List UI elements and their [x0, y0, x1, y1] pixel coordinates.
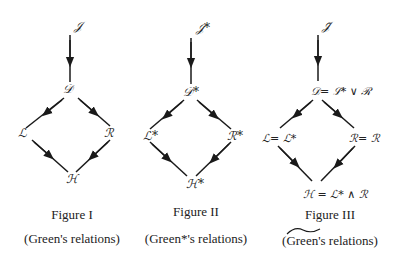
node-j: 𝒥	[73, 19, 87, 33]
node-d-join: 𝒟= ℒ* ∨ ℛ	[311, 85, 373, 98]
node-d-star: 𝒟*	[183, 85, 199, 99]
node-r: ℛ	[104, 126, 115, 140]
figure-3: 𝒥̃ 𝒟= ℒ* ∨ ℛ ℒ= ℒ* ℛ= ℛ ℋ = ℒ* ∧ ℛ	[262, 19, 381, 201]
node-h-meet: ℋ = ℒ* ∧ ℛ	[303, 188, 369, 201]
node-j-tilde: 𝒥̃	[321, 19, 335, 33]
caption-figure-1: Figure I	[51, 207, 93, 222]
caption-figure-3: Figure III	[305, 207, 355, 222]
figure-2: 𝒥* 𝒟* ℒ* ℛ* ℋ*	[143, 21, 243, 191]
arrow-icon	[34, 142, 50, 156]
figure-1: 𝒥 𝒟 ℒ ℛ ℋ	[18, 19, 115, 186]
node-h-star: ℋ*	[186, 177, 204, 191]
arrow-icon	[337, 148, 353, 165]
arrow-icon	[152, 144, 168, 159]
subtitle-figure-1: (Green's relations)	[24, 231, 120, 246]
node-l-eq: ℒ= ℒ*	[262, 132, 297, 145]
arrow-icon	[199, 102, 215, 116]
arrow-icon	[80, 100, 95, 113]
node-d: 𝒟	[63, 82, 75, 96]
arrow-icon	[46, 100, 62, 113]
node-h: ℋ	[66, 172, 80, 186]
arrow-icon	[324, 102, 339, 115]
arrow-icon	[280, 148, 296, 164]
node-r-eq: ℛ= ℛ	[349, 132, 381, 145]
arrow-icon	[166, 102, 182, 116]
subtitle-figure-3: (Green's relations)	[282, 233, 378, 248]
arrow-icon	[296, 102, 311, 115]
greens-relations-diagram: 𝒥 𝒟 ℒ ℛ ℋ 𝒥* 𝒟* ℒ* ℛ* ℋ* 𝒥̃	[0, 0, 398, 257]
subtitle-figure-2: (Green*'s relations)	[145, 231, 247, 246]
node-j-star: 𝒥*	[195, 21, 210, 35]
arrow-icon	[213, 144, 229, 160]
node-r-star: ℛ*	[227, 129, 243, 143]
arrow-icon	[92, 142, 108, 157]
caption-figure-2: Figure II	[173, 204, 219, 219]
node-l-star: ℒ*	[143, 129, 158, 143]
node-l: ℒ	[18, 126, 27, 140]
